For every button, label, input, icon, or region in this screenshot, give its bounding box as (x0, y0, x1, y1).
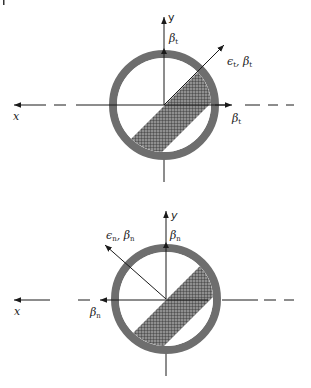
bottom-diagonal-label: ϵn, βn (106, 229, 135, 243)
top-y-beta-label: βt (168, 32, 178, 46)
bottom-y-label: y (170, 209, 178, 222)
top-panel: y βt ϵt, βt βt x (13, 11, 294, 182)
bottom-x-label: x (14, 305, 21, 318)
top-diagonal-label: ϵt, βt (227, 55, 252, 69)
figure-canvas: y βt ϵt, βt βt x y βn ϵn, βn βn x (0, 0, 311, 388)
corner-mark (3, 0, 5, 5)
bottom-y-beta-label: βn (169, 229, 181, 243)
top-y-label: y (168, 11, 175, 24)
top-x-label: x (13, 110, 20, 123)
top-x-beta-label: βt (231, 112, 241, 126)
bottom-x-beta-label: βn (89, 306, 101, 320)
bottom-panel: y βn ϵn, βn βn x (14, 209, 294, 376)
